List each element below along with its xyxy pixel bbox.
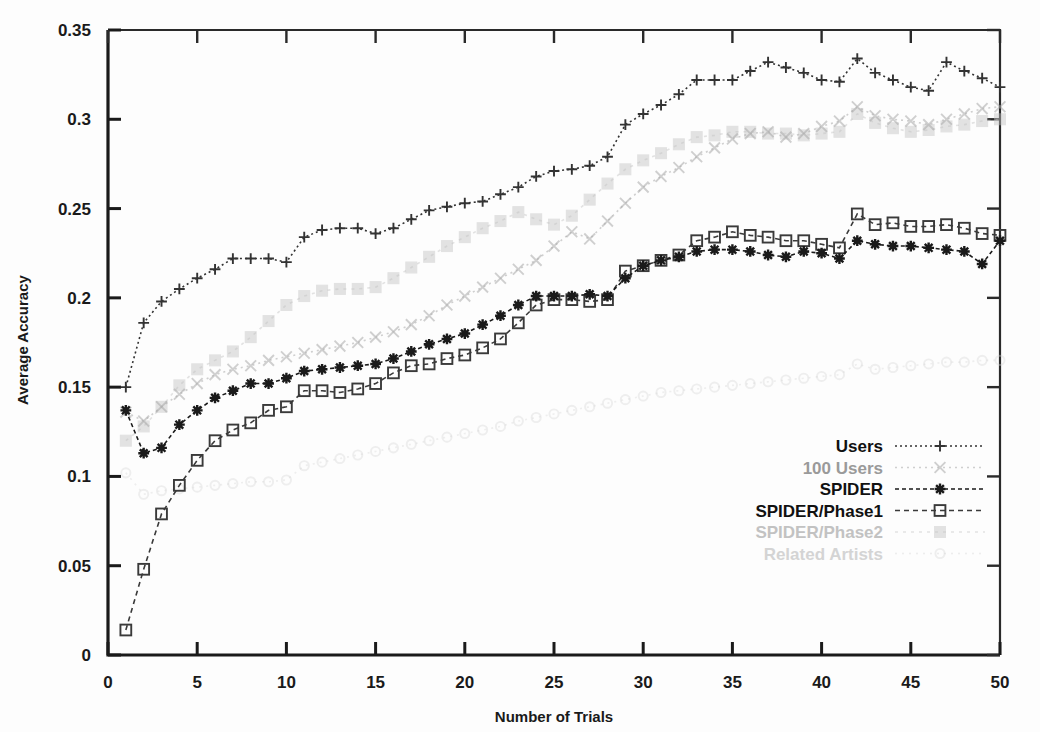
marker-shaded-square <box>459 232 470 243</box>
marker-shaded-square <box>638 155 649 166</box>
marker-plus <box>834 76 845 87</box>
marker-asterisk <box>531 291 542 302</box>
y-tick-label: 0.2 <box>67 289 91 308</box>
marker-shaded-square <box>192 364 203 375</box>
marker-cross <box>602 216 613 227</box>
marker-plus <box>602 151 613 162</box>
x-tick-label: 30 <box>634 673 653 692</box>
marker-circle <box>139 490 148 499</box>
marker-cross <box>442 300 453 311</box>
y-tick-label: 0.25 <box>58 200 91 219</box>
marker-cross <box>834 116 845 127</box>
marker-shaded-square <box>245 332 256 343</box>
marker-shaded-square <box>959 119 970 130</box>
marker-plus <box>549 166 560 177</box>
marker-asterisk <box>406 346 417 357</box>
legend-label-3: SPIDER/Phase1 <box>755 502 883 521</box>
marker-plus <box>120 382 131 393</box>
y-axis-title: Average Accuracy <box>14 274 31 404</box>
marker-cross <box>691 151 702 162</box>
marker-asterisk <box>656 255 667 266</box>
marker-shaded-square <box>995 114 1006 125</box>
series-spider-phase1 <box>120 209 1005 636</box>
marker-plus <box>691 75 702 86</box>
marker-shaded-square <box>888 123 899 134</box>
marker-asterisk <box>602 291 613 302</box>
marker-circle <box>835 370 844 379</box>
marker-plus <box>138 317 149 328</box>
marker-plus <box>317 225 328 236</box>
marker-shaded-square <box>299 291 310 302</box>
marker-shaded-square <box>138 421 149 432</box>
series-line <box>126 107 1000 421</box>
marker-shaded-square <box>495 216 506 227</box>
series-spider <box>120 235 1005 458</box>
marker-plus <box>299 232 310 243</box>
x-tick-label: 25 <box>545 673 564 692</box>
marker-asterisk <box>459 328 470 339</box>
marker-asterisk <box>995 235 1006 246</box>
marker-plus <box>709 75 720 86</box>
marker-asterisk <box>442 334 453 345</box>
marker-shaded-square <box>566 210 577 221</box>
marker-circle <box>935 549 944 558</box>
marker-asterisk <box>870 239 881 250</box>
x-tick-label: 35 <box>723 673 742 692</box>
marker-asterisk <box>156 442 167 453</box>
marker-asterisk <box>935 484 946 495</box>
y-tick-label: 0.35 <box>58 21 91 40</box>
marker-asterisk <box>210 392 221 403</box>
marker-plus <box>388 223 399 234</box>
marker-plus <box>781 62 792 73</box>
marker-plus <box>638 109 649 120</box>
marker-asterisk <box>388 353 399 364</box>
marker-plus <box>263 253 274 264</box>
marker-cross <box>656 171 667 182</box>
y-tick-label: 0 <box>82 646 91 665</box>
marker-shaded-square <box>477 223 488 234</box>
line-chart-canvas: 00.050.10.150.20.250.30.3505101520253035… <box>0 0 1040 732</box>
x-tick-label: 20 <box>455 673 474 692</box>
marker-asterisk <box>138 448 149 459</box>
marker-cross <box>406 319 417 330</box>
marker-circle <box>407 440 416 449</box>
x-tick-label: 10 <box>277 673 296 692</box>
marker-shaded-square <box>673 139 684 150</box>
series-spider-phase2 <box>120 109 1005 447</box>
marker-shaded-square <box>584 194 595 205</box>
marker-cross <box>513 264 524 275</box>
legend-label-0: Users <box>836 437 883 456</box>
marker-plus <box>459 198 470 209</box>
marker-circle <box>978 356 987 365</box>
marker-shaded-square <box>745 126 756 137</box>
marker-asterisk <box>977 259 988 270</box>
marker-plus <box>335 223 346 234</box>
marker-cross <box>959 109 970 120</box>
marker-asterisk <box>816 248 827 259</box>
marker-asterisk <box>424 339 435 350</box>
marker-cross <box>673 162 684 173</box>
marker-asterisk <box>174 419 185 430</box>
marker-circle <box>264 477 273 486</box>
marker-shaded-square <box>174 380 185 391</box>
marker-circle <box>496 422 505 431</box>
marker-circle <box>960 358 969 367</box>
marker-plus <box>816 75 827 86</box>
marker-plus <box>424 205 435 216</box>
marker-plus <box>923 85 934 96</box>
x-tick-label: 0 <box>103 673 112 692</box>
x-axis-title: Number of Trials <box>495 708 613 725</box>
marker-asterisk <box>317 364 328 375</box>
legend-label-2: SPIDER <box>820 480 883 499</box>
marker-circle <box>817 372 826 381</box>
marker-plus <box>281 257 292 268</box>
marker-plus <box>513 182 524 193</box>
chart-figure: 00.050.10.150.20.250.30.3505101520253035… <box>0 0 1040 732</box>
marker-shaded-square <box>120 435 131 446</box>
marker-plus <box>245 253 256 264</box>
marker-shaded-square <box>370 282 381 293</box>
marker-asterisk <box>584 289 595 300</box>
x-tick-label: 15 <box>366 673 385 692</box>
marker-shaded-square <box>406 262 417 273</box>
marker-shaded-square <box>335 284 346 295</box>
